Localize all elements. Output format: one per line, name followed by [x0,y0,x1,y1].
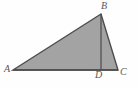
vertex-label-b: B [101,1,107,11]
vertex-label-d: D [95,70,102,80]
geometry-figure: A B C D [0,0,137,89]
vertex-label-c: C [120,67,127,77]
triangle-diagram-svg [0,0,137,89]
triangle-abc-shape [13,14,118,70]
vertex-label-a: A [4,64,10,74]
